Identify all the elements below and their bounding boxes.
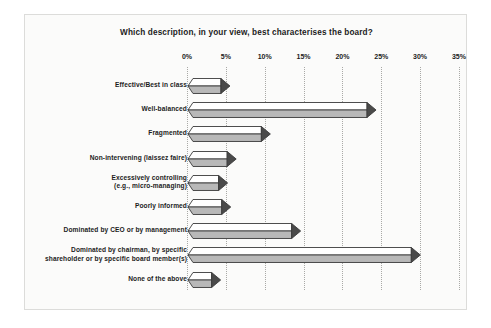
- category-label: Fragmented: [148, 129, 187, 137]
- bar-row[interactable]: None of the above: [25, 267, 468, 291]
- x-axis-tick-label: 10%: [258, 53, 272, 60]
- category-label: Dominated by CEO or by management: [64, 226, 187, 234]
- bar-shape: [187, 223, 302, 240]
- bar-row[interactable]: Poorly informed: [25, 194, 468, 218]
- bar-row[interactable]: Non-intervening (laissez faire): [25, 146, 468, 170]
- bar-row[interactable]: Fragmented: [25, 121, 468, 145]
- x-axis-tick-label: 25%: [374, 53, 388, 60]
- category-label: Effective/Best in class: [115, 81, 187, 89]
- bar[interactable]: [187, 174, 229, 189]
- bar-shape: [187, 174, 229, 191]
- bar-row[interactable]: Well-balanced: [25, 97, 468, 121]
- x-axis-tick-label: 35%: [452, 53, 466, 60]
- bar-row[interactable]: Excessively controlling (e.g., micro-man…: [25, 170, 468, 194]
- x-axis-tick-label: 20%: [335, 53, 349, 60]
- bar[interactable]: [187, 247, 421, 262]
- chart-panel: Which description, in your view, best ch…: [24, 14, 467, 310]
- category-label: Non-intervening (laissez faire): [90, 153, 187, 161]
- x-axis-tick-label: 15%: [297, 53, 311, 60]
- bar-row[interactable]: Dominated by chairman, by specific share…: [25, 242, 468, 266]
- bar[interactable]: [187, 102, 377, 117]
- bar-shape: [187, 199, 232, 216]
- bar-shape: [187, 150, 237, 167]
- x-axis-tick-label: 30%: [413, 53, 427, 60]
- bar-shape: [187, 102, 377, 119]
- bar-row[interactable]: Dominated by CEO or by management: [25, 218, 468, 242]
- bar[interactable]: [187, 126, 271, 141]
- plot-area: 0%5%10%15%20%25%30%35% Effective/Best in…: [25, 15, 468, 311]
- bar-shape: [187, 78, 231, 95]
- bar[interactable]: [187, 271, 222, 286]
- bar-shape: [187, 247, 421, 264]
- category-label: Dominated by chairman, by specific share…: [45, 246, 187, 263]
- bar-shape: [187, 271, 222, 288]
- category-label: Well-balanced: [141, 105, 187, 113]
- bar[interactable]: [187, 150, 237, 165]
- x-axis-tick-label: 0%: [182, 53, 192, 60]
- bar-shape: [187, 126, 271, 143]
- category-label: Excessively controlling (e.g., micro-man…: [111, 174, 187, 191]
- category-label: Poorly informed: [135, 202, 187, 210]
- x-axis-tick-label: 5%: [221, 53, 231, 60]
- bar[interactable]: [187, 78, 231, 93]
- bar[interactable]: [187, 199, 232, 214]
- category-label: None of the above: [128, 274, 187, 282]
- bar[interactable]: [187, 223, 302, 238]
- bar-row[interactable]: Effective/Best in class: [25, 73, 468, 97]
